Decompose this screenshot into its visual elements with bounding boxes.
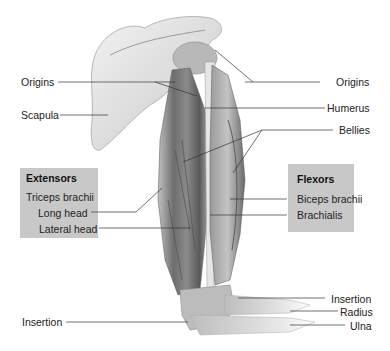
label-biceps-brachii: Biceps brachii (297, 193, 362, 205)
label-origins-right: Origins (336, 76, 369, 88)
label-insertion-right: Insertion (331, 293, 371, 305)
flexors-title: Flexors (297, 173, 334, 185)
extensors-title: Extensors (26, 172, 77, 184)
label-lateral-head: Lateral head (39, 223, 97, 235)
biceps-muscle (210, 65, 245, 285)
triceps-muscle (158, 68, 210, 295)
label-brachialis: Brachialis (297, 209, 343, 221)
label-ulna: Ulna (350, 320, 372, 332)
label-triceps-brachii: Triceps brachii (26, 191, 94, 203)
label-scapula: Scapula (21, 109, 59, 121)
label-radius: Radius (340, 306, 373, 318)
label-bellies: Bellies (339, 124, 370, 136)
label-origins-left: Origins (21, 76, 54, 88)
arm-muscle-diagram: Origins Scapula Insertion Origins Humeru… (0, 0, 390, 351)
label-humerus: Humerus (327, 102, 370, 114)
label-insertion-left: Insertion (22, 316, 62, 328)
label-long-head: Long head (38, 207, 88, 219)
